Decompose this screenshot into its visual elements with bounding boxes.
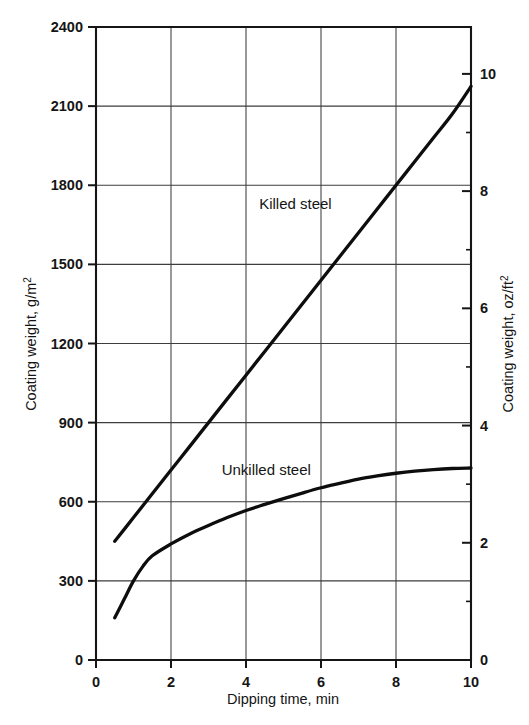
series-label-unkilled-steel: Unkilled steel — [222, 461, 311, 478]
y-tick-label-left: 900 — [59, 415, 83, 431]
y-tick-label-right: 4 — [480, 418, 488, 434]
y-axis-title-right: Coating weight, oz/ft2 — [499, 275, 516, 412]
y-tick-label-left: 600 — [59, 494, 83, 510]
y-tick-label-left: 1500 — [51, 256, 83, 272]
y-tick-label-left: 1800 — [51, 177, 83, 193]
grid-lines — [96, 27, 471, 660]
x-tick-label: 8 — [392, 674, 400, 690]
data-curves — [115, 86, 471, 617]
tick-labels: 0300600900120015001800210024000246810024… — [51, 19, 496, 690]
y-tick-label-left: 0 — [75, 652, 83, 668]
x-tick-label: 10 — [463, 674, 479, 690]
x-axis-title: Dipping time, min — [227, 691, 339, 707]
coating-weight-vs-dipping-time-chart: 0300600900120015001800210024000246810024… — [0, 0, 529, 725]
y-tick-label-right: 0 — [480, 652, 488, 668]
tick-marks — [88, 27, 471, 668]
y-axis-title-left: Coating weight, g/m2 — [22, 277, 39, 411]
y-axis-title-left-group: Coating weight, g/m2 — [22, 277, 39, 411]
x-tick-label: 0 — [92, 674, 100, 690]
curve-unkilled-steel — [115, 468, 471, 618]
y-tick-label-right: 6 — [480, 300, 488, 316]
y-tick-label-right: 2 — [480, 535, 488, 551]
chart-figure: 0300600900120015001800210024000246810024… — [0, 0, 529, 725]
y-tick-label-left: 1200 — [51, 336, 83, 352]
y-tick-label-right: 8 — [480, 183, 488, 199]
y-tick-label-right: 10 — [480, 66, 496, 82]
x-tick-label: 2 — [167, 674, 175, 690]
series-label-killed-steel: Killed steel — [259, 195, 332, 212]
x-tick-label: 6 — [317, 674, 325, 690]
y-axis-title-right-group: Coating weight, oz/ft2 — [499, 275, 516, 412]
y-tick-label-left: 2400 — [51, 19, 83, 35]
y-tick-label-left: 2100 — [51, 98, 83, 114]
x-tick-label: 4 — [242, 674, 250, 690]
y-tick-label-left: 300 — [59, 573, 83, 589]
